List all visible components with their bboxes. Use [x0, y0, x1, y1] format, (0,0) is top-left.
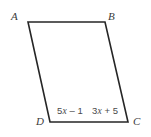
parallelogram-svg [0, 0, 151, 137]
vertex-label-d: D [36, 116, 44, 127]
segment-expression-right: 3x + 5 [92, 106, 118, 116]
segment-expression-left: 5x – 1 [57, 106, 83, 116]
geometry-figure: A B C D 5x – 1 3x + 5 [0, 0, 151, 137]
vertex-label-b: B [108, 11, 115, 22]
vertex-label-c: C [133, 116, 140, 127]
vertex-label-a: A [11, 11, 18, 22]
